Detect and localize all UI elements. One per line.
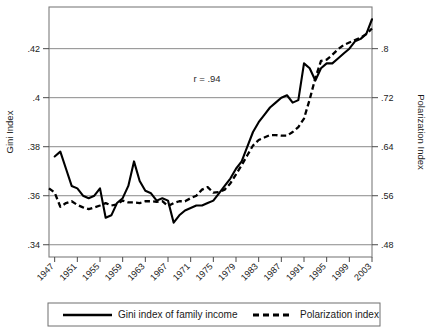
legend-label-polarization: Polarization index [300, 309, 379, 320]
y-tick-label: .36 [27, 191, 40, 201]
x-tick-label: 1963 [126, 261, 147, 282]
y2-tick-label: .8 [381, 44, 389, 54]
y2-axis-title: Polarization Index [416, 94, 427, 170]
x-tick-label: 1975 [194, 261, 215, 282]
y2-tick-label: .56 [381, 191, 394, 201]
x-tick-label: 2003 [352, 261, 373, 282]
chart-svg: .34.36.38.4.42 .48.56.64.72.8 1947195119… [0, 0, 431, 330]
x-tick-label: 1955 [80, 261, 101, 282]
x-tick-label: 1959 [103, 261, 124, 282]
y-tick-label: .38 [27, 142, 40, 152]
y-tick-label: .42 [27, 44, 40, 54]
left-axis: .34.36.38.4.42 [27, 44, 49, 250]
legend-label-gini: Gini index of family income [118, 309, 238, 320]
x-tick-label: 1987 [262, 261, 283, 282]
x-tick-label: 1995 [307, 261, 328, 282]
y-axis-title: Gini Index [4, 110, 15, 153]
plot-background [49, 7, 372, 257]
x-tick-label: 1979 [216, 261, 237, 282]
y-tick-label: .4 [32, 93, 40, 103]
x-tick-label: 1947 [35, 261, 56, 282]
correlation-annotation: r = .94 [193, 73, 220, 84]
x-tick-label: 1951 [58, 261, 79, 282]
y2-tick-label: .72 [381, 93, 394, 103]
y2-tick-label: .48 [381, 240, 394, 250]
x-tick-label: 1967 [148, 261, 169, 282]
chart-figure: .34.36.38.4.42 .48.56.64.72.8 1947195119… [0, 0, 431, 330]
x-tick-label: 1991 [284, 261, 305, 282]
x-tick-label: 1999 [330, 261, 351, 282]
x-tick-label: 1971 [171, 261, 192, 282]
x-tick-label: 1983 [239, 261, 260, 282]
right-axis: .48.56.64.72.8 [372, 44, 394, 250]
y2-tick-label: .64 [381, 142, 394, 152]
chart-legend: Gini index of family income Polarization… [48, 303, 380, 326]
x-axis: 1947195119551959196319671971197519791983… [35, 257, 374, 283]
y-tick-label: .34 [27, 240, 40, 250]
